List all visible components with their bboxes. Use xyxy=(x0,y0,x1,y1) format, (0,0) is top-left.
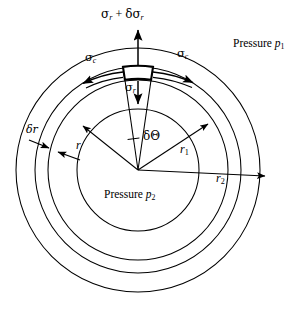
pressure-p1-label: Pressure p1 xyxy=(233,38,285,51)
radius-r-arrow xyxy=(83,126,138,170)
delta-theta-label: δΘ xyxy=(143,130,160,142)
delta-r-label: δr xyxy=(26,124,38,135)
wedge-side-right xyxy=(138,68,153,170)
sigma-r-plus-delta-sigma-r-label: σr + δσr xyxy=(101,8,144,22)
delta-r-lower-arrow xyxy=(58,152,80,160)
pressure-p2-label: Pressure p2 xyxy=(104,189,156,202)
radius-r-label: r xyxy=(76,139,81,151)
sigma-c-left-label: σc xyxy=(85,52,96,65)
radius-r2-label: r2 xyxy=(216,172,225,186)
stress-element-block xyxy=(123,66,153,80)
sigma-c-right-label: σc xyxy=(177,48,188,61)
radius-r2-arrow xyxy=(138,170,265,176)
sigma-r-inner-label: σr xyxy=(125,82,136,95)
figure-canvas: σr + δσr σc σc σr Pressure p1 Pressure p… xyxy=(0,0,298,318)
radius-r1-label: r1 xyxy=(180,143,189,157)
